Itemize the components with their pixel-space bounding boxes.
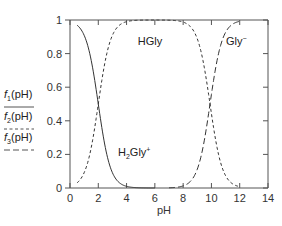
species-fraction-chart: 02468101214 00.20.40.60.81 pH HGly Gly− … (0, 0, 282, 226)
annotation-hgly: HGly (138, 35, 163, 47)
legend-label-2: f2(pH) (4, 110, 32, 124)
h2gly-rest: Gly (130, 146, 147, 158)
h2gly-h: H (118, 146, 126, 158)
annotation-gly-minus: Gly− (226, 35, 247, 47)
y-tick-label: 0.4 (47, 115, 62, 127)
x-tick-label: 2 (95, 192, 101, 204)
legend-label-1: f1(pH) (4, 88, 32, 102)
y-tick-label: 0.6 (47, 81, 62, 93)
x-tick-label: 4 (124, 192, 130, 204)
annotation-h2gly-plus: H2Gly+ (118, 146, 150, 160)
x-tick-label: 8 (180, 192, 186, 204)
h2gly-sup: + (146, 146, 150, 153)
gly-sup: − (243, 35, 247, 42)
x-tick-label: 6 (152, 192, 158, 204)
x-ticks: 02468101214 (67, 20, 274, 204)
y-tick-label: 0.8 (47, 48, 62, 60)
y-tick-label: 0.2 (47, 148, 62, 160)
x-tick-label: 12 (234, 192, 246, 204)
legend: f1(pH)f2(pH)f3(pH) (4, 88, 34, 150)
x-axis-label: pH (157, 204, 171, 216)
gly-text: Gly (226, 35, 243, 47)
x-tick-label: 10 (205, 192, 217, 204)
x-tick-label: 14 (262, 192, 274, 204)
series-line-1 (77, 25, 155, 188)
y-tick-label: 1 (56, 14, 62, 26)
y-tick-label: 0 (56, 182, 62, 194)
legend-label-3: f3(pH) (4, 131, 32, 145)
x-tick-label: 0 (67, 192, 73, 204)
